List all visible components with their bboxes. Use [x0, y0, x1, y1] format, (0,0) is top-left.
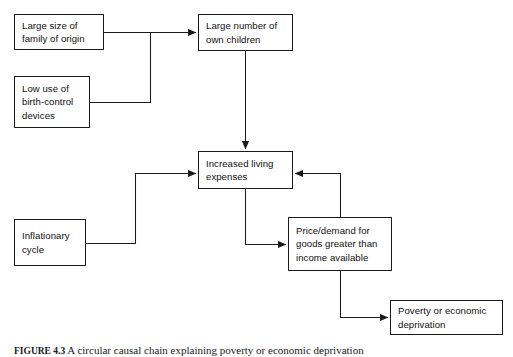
node-low-birth-control: Low use of birth-control devices	[14, 76, 90, 128]
node-poverty-label: Poverty or economic deprivation	[398, 304, 486, 330]
node-poverty: Poverty or economic deprivation	[390, 300, 503, 335]
node-own-children-label: Large number of own children	[206, 19, 277, 45]
node-price-demand: Price/demand for goods greater than inco…	[288, 217, 392, 271]
node-large-family: Large size of family of origin	[14, 14, 104, 50]
node-living-expenses: Increased living expenses	[198, 151, 293, 189]
node-inflationary-cycle-label: Inflationary cycle	[22, 229, 70, 255]
node-low-birth-control-label: Low use of birth-control devices	[22, 82, 73, 122]
node-inflationary-cycle: Inflationary cycle	[14, 219, 86, 266]
node-price-demand-label: Price/demand for goods greater than inco…	[296, 224, 377, 264]
connector-price-demand-to-poverty	[341, 271, 389, 318]
node-own-children: Large number of own children	[198, 14, 293, 51]
figure-caption: FIGURE 4.3 A circular causal chain expla…	[14, 344, 509, 357]
figure-container: Large size of family of origin Low use o…	[0, 0, 513, 357]
node-large-family-label: Large size of family of origin	[22, 19, 85, 45]
connector-inflationary-cycle-to-living-expenses	[86, 174, 196, 244]
node-living-expenses-label: Increased living expenses	[206, 157, 273, 183]
connector-living-expenses-to-price-demand	[246, 189, 287, 245]
connector-price-demand-to-living-expenses	[295, 174, 341, 218]
figure-caption-number: FIGURE 4.3	[14, 346, 65, 356]
figure-caption-text: A circular causal chain explaining pover…	[65, 344, 363, 356]
